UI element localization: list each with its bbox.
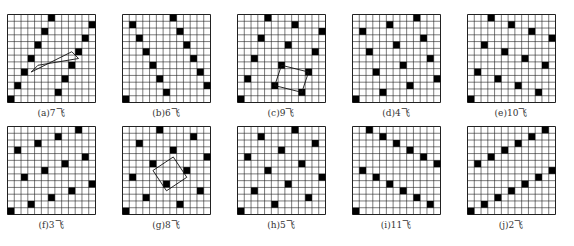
marked-cell: [427, 55, 434, 62]
grid-j: [467, 126, 555, 214]
marked-cell: [501, 48, 508, 55]
marked-cell: [413, 15, 420, 22]
marked-cell: [251, 187, 258, 194]
marked-cell: [468, 208, 475, 215]
marked-cell: [265, 167, 272, 174]
marked-cell: [522, 55, 529, 62]
marked-cell: [150, 160, 157, 167]
marked-cell: [238, 208, 245, 215]
marked-cell: [177, 201, 184, 208]
marked-cell: [373, 174, 380, 181]
panel-label: (j)2飞: [467, 218, 555, 231]
marked-cell: [312, 140, 319, 147]
marked-cell: [183, 42, 190, 49]
marked-cell: [413, 194, 420, 201]
marked-cell: [21, 174, 28, 181]
marked-cell: [170, 15, 177, 22]
pattern-panel-d: (d)4飞: [352, 14, 440, 102]
marked-cell: [183, 167, 190, 174]
marked-cell: [204, 154, 211, 161]
marked-cell: [535, 174, 542, 181]
cropped-caption-line: [0, 0, 574, 6]
marked-cell: [244, 154, 251, 161]
marked-cell: [359, 167, 366, 174]
marked-cell: [312, 48, 319, 55]
marked-cell: [393, 140, 400, 147]
marked-cell: [515, 140, 522, 147]
grid-f: [7, 126, 95, 214]
marked-cell: [400, 62, 407, 69]
marked-cell: [271, 201, 278, 208]
marked-cell: [150, 62, 157, 69]
marked-cell: [292, 21, 299, 28]
marked-cell: [366, 127, 373, 134]
marked-cell: [75, 127, 82, 134]
pattern-panel-e: (e)10飞: [467, 14, 555, 102]
marked-cell: [292, 127, 299, 134]
marked-cell: [62, 75, 69, 82]
marked-cell: [163, 89, 170, 96]
grid-g: [122, 126, 210, 214]
marked-cell: [8, 208, 15, 215]
marked-cell: [535, 89, 542, 96]
marked-cell: [244, 75, 251, 82]
marked-cell: [380, 89, 387, 96]
marked-cell: [75, 48, 82, 55]
panel-label: (d)4飞: [352, 106, 440, 119]
marked-cell: [190, 133, 197, 140]
marked-cell: [427, 201, 434, 208]
panel-label: (e)10飞: [467, 106, 555, 119]
marked-cell: [488, 15, 495, 22]
marked-cell: [68, 62, 75, 69]
marked-cell: [488, 154, 495, 161]
grid-e: [467, 14, 555, 102]
marked-cell: [407, 147, 414, 154]
marked-cell: [177, 28, 184, 35]
marked-cell: [143, 194, 150, 201]
marked-cell: [420, 35, 427, 42]
marked-cell: [380, 133, 387, 140]
panel-label: (c)9飞: [237, 106, 325, 119]
marked-cell: [285, 42, 292, 49]
marked-cell: [82, 35, 89, 42]
marked-cell: [62, 160, 69, 167]
marked-cell: [481, 201, 488, 208]
marked-cell: [515, 82, 522, 89]
grid-i: [352, 126, 440, 214]
marked-cell: [35, 42, 42, 49]
marked-cell: [190, 55, 197, 62]
marked-cell: [549, 167, 556, 174]
grid-d: [352, 14, 440, 102]
marked-cell: [434, 160, 441, 167]
marked-cell: [123, 208, 130, 215]
marked-cell: [508, 187, 515, 194]
pattern-panel-i: (i)11飞: [352, 126, 440, 214]
marked-cell: [41, 28, 48, 35]
marked-cell: [129, 174, 136, 181]
marked-cell: [28, 201, 35, 208]
marked-cell: [8, 96, 15, 103]
marked-cell: [21, 69, 28, 76]
marked-cell: [528, 28, 535, 35]
marked-cell: [278, 147, 285, 154]
marked-cell: [353, 96, 360, 103]
marked-cell: [68, 187, 75, 194]
grid-a: [7, 14, 95, 102]
panel-label: (f)3飞: [7, 218, 95, 231]
marked-cell: [89, 181, 96, 188]
marked-cell: [41, 167, 48, 174]
marked-cell: [373, 69, 380, 76]
marked-cell: [156, 127, 163, 134]
marked-cell: [82, 154, 89, 161]
marked-cell: [251, 55, 258, 62]
pattern-panel-h: (h)5飞: [237, 126, 325, 214]
marked-cell: [542, 62, 549, 69]
grid-c: [237, 14, 325, 102]
marked-cell: [163, 181, 170, 188]
marked-cell: [143, 48, 150, 55]
marked-cell: [386, 21, 393, 28]
marked-cell: [258, 133, 265, 140]
marked-cell: [522, 181, 529, 188]
marked-cell: [353, 208, 360, 215]
grid-h: [237, 126, 325, 214]
